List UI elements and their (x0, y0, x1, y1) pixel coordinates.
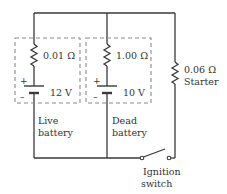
starter-caption: Starter (184, 76, 219, 87)
live-minus-sign: – (20, 93, 25, 102)
ignition-switch (34, 149, 171, 160)
circuit-diagram (0, 0, 227, 194)
live-resistance-label: 0.01 Ω (43, 50, 75, 61)
switch-right-terminal-icon (167, 156, 171, 160)
starter-resistance-label: 0.06 Ω (184, 64, 216, 75)
live-plus-sign: + (20, 77, 28, 86)
switch-left-terminal-icon (140, 156, 144, 160)
ignition-switch-caption-line1: Ignition (143, 166, 181, 177)
ignition-switch-caption-line2: switch (141, 178, 172, 189)
live-battery-caption-line1: Live (38, 115, 58, 126)
live-emf-label: 12 V (50, 87, 72, 98)
dead-plus-sign: + (93, 77, 101, 86)
live-internal-resistor-icon (31, 44, 37, 66)
dead-battery-caption-line2: battery (112, 127, 147, 138)
live-battery-caption-line2: battery (38, 127, 73, 138)
dead-resistance-label: 1.00 Ω (116, 50, 148, 61)
starter-branch (171, 13, 178, 158)
dead-internal-resistor-icon (104, 44, 110, 66)
dead-minus-sign: – (93, 93, 98, 102)
switch-blade-icon (144, 149, 166, 157)
dead-emf-label: 10 V (123, 87, 145, 98)
dead-battery-caption-line1: Dead (112, 115, 137, 126)
starter-resistor-icon (172, 62, 178, 84)
